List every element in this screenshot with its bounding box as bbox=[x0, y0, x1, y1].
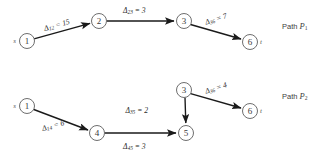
node-3-p2[interactable]: 3 bbox=[177, 83, 192, 98]
sink-marker-t-p2: t bbox=[260, 107, 263, 115]
edge-label-14: Δ14 = 6 bbox=[40, 118, 65, 133]
node-3[interactable]: 3 bbox=[177, 14, 192, 29]
node-6-p2-label: 6 bbox=[248, 106, 253, 116]
edge-label-23: Δ23 = 3 bbox=[122, 6, 146, 16]
node-6-label: 6 bbox=[248, 37, 253, 47]
edge-3-5: Δ35 = 2 bbox=[124, 98, 185, 124]
node-1-p2[interactable]: 1 s bbox=[13, 99, 34, 114]
path-label-p2: Path P2 bbox=[282, 91, 308, 101]
node-4[interactable]: 4 bbox=[90, 126, 105, 141]
node-1-label: 1 bbox=[25, 36, 30, 46]
sink-marker-t: t bbox=[260, 38, 263, 46]
node-3-label: 3 bbox=[182, 16, 187, 26]
source-marker-s-p2: s bbox=[13, 102, 16, 110]
node-5-label: 5 bbox=[184, 128, 189, 138]
diagram-path-p1: Δ12 = 15 Δ23 = 3 Δ36 = 7 1 s 2 bbox=[13, 6, 307, 50]
node-3-p2-label: 3 bbox=[182, 85, 187, 95]
node-2[interactable]: 2 bbox=[92, 14, 107, 29]
node-2-label: 2 bbox=[97, 16, 102, 26]
node-1-p2-label: 1 bbox=[25, 101, 30, 111]
edge-label-35: Δ35 = 2 bbox=[124, 106, 148, 116]
path-label-p1: Path P1 bbox=[282, 21, 308, 31]
edge-1-2: Δ12 = 15 bbox=[34, 16, 90, 39]
source-marker-s: s bbox=[13, 37, 16, 45]
edge-label-36: Δ36 = 7 bbox=[203, 10, 230, 27]
edge-1-4: Δ14 = 6 bbox=[34, 110, 88, 134]
node-5[interactable]: 5 bbox=[179, 126, 194, 141]
figure-canvas: Δ12 = 15 Δ23 = 3 Δ36 = 7 1 s 2 bbox=[0, 0, 327, 155]
node-6-p2[interactable]: 6 t bbox=[243, 104, 264, 119]
edge-label-36-p2: Δ36 = 4 bbox=[203, 80, 229, 96]
node-1[interactable]: 1 s bbox=[13, 34, 34, 49]
diagram-path-p2: Δ14 = 6 Δ45 = 3 Δ35 = 2 Δ36 = 4 1 s bbox=[13, 80, 307, 151]
graph-svg: Δ12 = 15 Δ23 = 3 Δ36 = 7 1 s 2 bbox=[0, 0, 327, 155]
edge-2-3: Δ23 = 3 bbox=[107, 6, 175, 22]
edge-3-6: Δ36 = 7 bbox=[191, 10, 242, 39]
edge-label-45: Δ45 = 3 bbox=[122, 142, 146, 152]
edge-3-6-p2: Δ36 = 4 bbox=[191, 80, 241, 108]
edge-4-5: Δ45 = 3 bbox=[105, 133, 177, 151]
node-4-label: 4 bbox=[95, 128, 100, 138]
node-6[interactable]: 6 t bbox=[243, 35, 264, 50]
